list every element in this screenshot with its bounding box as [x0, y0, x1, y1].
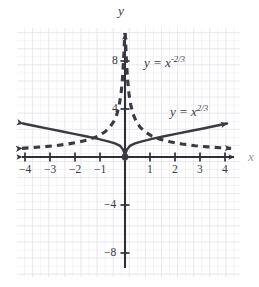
x-tick-label-neg1: −1 — [94, 164, 106, 176]
x-tick-label-neg4: −4 — [19, 164, 31, 176]
x-tick-label-3: 3 — [197, 164, 203, 176]
y-tick-label-neg4: −4 — [104, 199, 116, 211]
origin-cusp-point — [122, 154, 129, 161]
graph-figure: y x y = x-2/3 y = x2/3 −4 −3 −2 −1 1 2 3… — [0, 0, 259, 287]
y-axis-label: y — [118, 4, 124, 18]
reciprocal-label-base: y = x — [144, 55, 171, 70]
power-curve-label: y = x2/3 — [170, 105, 208, 118]
x-axis-label: x — [248, 150, 254, 164]
power-label-exponent: 2/3 — [197, 103, 208, 113]
power-label-base: y = x — [170, 104, 197, 119]
x-tick-label-1: 1 — [147, 164, 153, 176]
reciprocal-curve-label: y = x-2/3 — [144, 56, 185, 69]
y-tick-label-neg8: −8 — [104, 247, 116, 259]
x-tick-label-4: 4 — [222, 164, 228, 176]
coordinate-plane — [0, 0, 259, 287]
x-tick-label-neg2: −2 — [69, 164, 81, 176]
y-tick-label-4: 4 — [112, 103, 118, 115]
x-tick-label-2: 2 — [172, 164, 178, 176]
reciprocal-label-exponent: -2/3 — [171, 54, 185, 64]
y-tick-label-8: 8 — [112, 55, 118, 67]
x-tick-label-neg3: −3 — [44, 164, 56, 176]
